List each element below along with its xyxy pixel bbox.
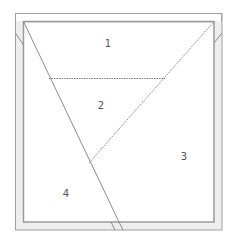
- region-label-1: 1: [105, 39, 111, 49]
- region-label-3: 3: [181, 152, 187, 162]
- partition-diagram: [0, 0, 234, 238]
- outer-frame: [15, 13, 222, 230]
- region-label-2: 2: [98, 101, 104, 111]
- region-label-4: 4: [63, 189, 69, 199]
